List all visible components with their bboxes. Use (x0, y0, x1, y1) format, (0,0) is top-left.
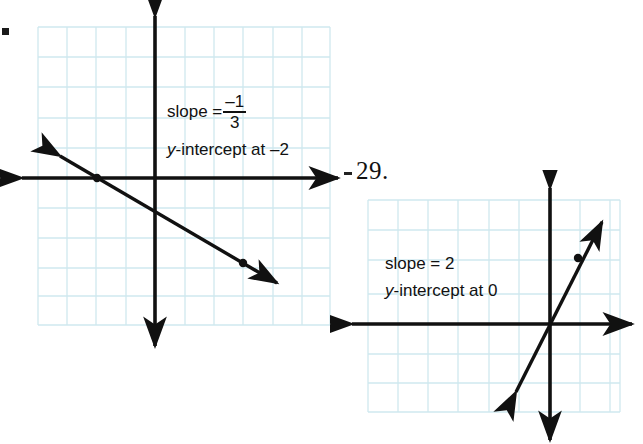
slope-label-problem-1: slope = –1 3 (167, 93, 246, 131)
slope-label-problem-29: slope = 2 (385, 254, 454, 274)
slope-denominator-problem-1: 3 (228, 113, 241, 131)
plot-point-problem-29 (574, 254, 582, 262)
intercept-label-problem-29: y-intercept at 0 (385, 281, 497, 301)
axes-problem-29 (352, 188, 632, 440)
plot-point-problem-1 (239, 259, 247, 267)
graph-problem-1 (0, 0, 345, 400)
intercept-variable-problem-1: y (167, 140, 176, 159)
worksheet-page: slope = –1 3 y-intercept at –2 29. (0, 0, 643, 444)
slope-numerator-problem-1: –1 (223, 93, 246, 111)
slope-label-text-problem-1: slope = (167, 102, 222, 122)
graph-problem-29 (330, 170, 643, 444)
plot-point-x-intercept-problem-1 (93, 174, 101, 182)
grid-lines-problem-1 (38, 27, 330, 325)
intercept-text-problem-29: -intercept at 0 (394, 281, 498, 300)
slope-label-text-problem-29: slope = 2 (385, 254, 454, 274)
intercept-variable-problem-29: y (385, 281, 394, 300)
grid-lines-problem-29 (368, 200, 620, 412)
plotted-line-problem-29 (516, 222, 602, 392)
intercept-text-problem-1: -intercept at –2 (176, 140, 289, 159)
intercept-label-problem-1: y-intercept at –2 (167, 140, 289, 160)
slope-fraction-problem-1: –1 3 (223, 93, 246, 131)
